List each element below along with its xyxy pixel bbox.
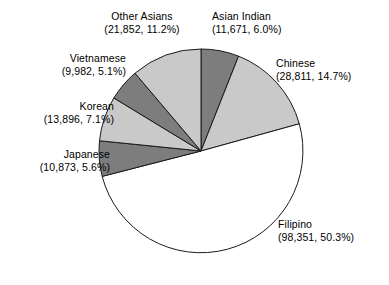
slice-label-value: (9,982, 5.1%)	[14, 65, 126, 78]
slice-label-name: Korean	[2, 100, 114, 113]
slice-label-value: (98,351, 50.3%)	[278, 231, 388, 244]
slice-label-other-asians: Other Asians (21,852, 11.2%)	[84, 10, 200, 36]
slice-label-korean: Korean (13,896, 7.1%)	[2, 100, 114, 126]
slice-label-japanese: Japanese (10,873, 5.6%)	[0, 148, 110, 174]
slice-label-value: (10,873, 5.6%)	[0, 161, 110, 174]
pie-slice-group	[99, 49, 303, 253]
slice-label-name: Japanese	[0, 148, 110, 161]
slice-label-asian-indian: Asian Indian (11,671, 6.0%)	[212, 10, 328, 36]
slice-label-value: (11,671, 6.0%)	[212, 23, 328, 36]
slice-label-filipino: Filipino (98,351, 50.3%)	[278, 218, 388, 244]
slice-label-value: (13,896, 7.1%)	[2, 113, 114, 126]
slice-label-name: Asian Indian	[212, 10, 328, 23]
slice-label-name: Chinese	[276, 57, 388, 70]
slice-label-name: Other Asians	[84, 10, 200, 23]
slice-label-vietnamese: Vietnamese (9,982, 5.1%)	[14, 52, 126, 78]
pie-chart-figure: Other Asians (21,852, 11.2%) Asian India…	[0, 0, 389, 285]
slice-label-name: Filipino	[278, 218, 388, 231]
slice-label-value: (21,852, 11.2%)	[84, 23, 200, 36]
slice-label-name: Vietnamese	[14, 52, 126, 65]
slice-label-value: (28,811, 14.7%)	[276, 70, 388, 83]
slice-label-chinese: Chinese (28,811, 14.7%)	[276, 57, 388, 83]
